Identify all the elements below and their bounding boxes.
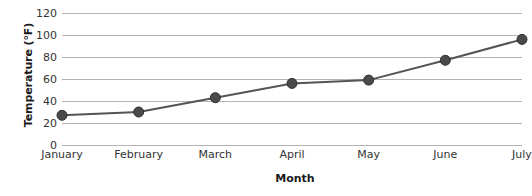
x-tick-label: July — [512, 148, 532, 161]
data-point-marker — [517, 34, 527, 44]
data-point-markers — [57, 34, 527, 120]
data-point-marker — [57, 110, 67, 120]
data-point-marker — [134, 107, 144, 117]
y-tick-label: 60 — [29, 74, 57, 85]
temperature-line — [62, 39, 522, 115]
data-point-marker — [440, 55, 450, 65]
x-tick-label: May — [357, 148, 380, 161]
plot-area — [62, 13, 522, 145]
chart-plot-svg — [62, 13, 522, 145]
y-tick-label: 100 — [29, 30, 57, 41]
x-axis-tick-labels: JanuaryFebruaryMarchAprilMayJuneJuly — [62, 148, 522, 164]
x-tick-label: January — [41, 148, 83, 161]
x-tick-label: March — [199, 148, 233, 161]
y-tick-label: 120 — [29, 8, 57, 19]
x-axis-title: Month — [60, 172, 530, 185]
y-tick-label: 80 — [29, 52, 57, 63]
y-tick-label: 40 — [29, 96, 57, 107]
y-axis-tick-labels: 020406080100120 — [29, 0, 57, 196]
x-tick-label: April — [279, 148, 304, 161]
data-point-marker — [364, 75, 374, 85]
y-tick-label: 20 — [29, 118, 57, 129]
x-tick-label: June — [433, 148, 457, 161]
data-point-marker — [287, 78, 297, 88]
data-point-marker — [210, 93, 220, 103]
x-tick-label: February — [114, 148, 163, 161]
